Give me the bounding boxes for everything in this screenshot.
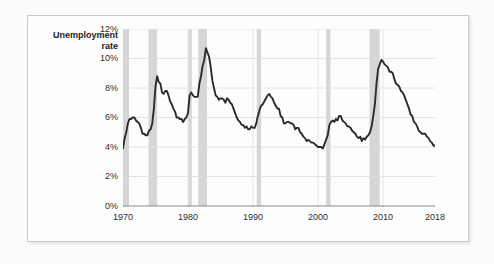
y-axis-tick-label: 8%	[84, 84, 118, 93]
x-axis-tick-label: 1980	[165, 213, 211, 222]
y-axis-tick-label: 0%	[84, 202, 118, 211]
plot-area	[123, 29, 435, 206]
y-axis-tick-label: 12%	[84, 25, 118, 34]
x-axis-tick-label: 2000	[295, 213, 341, 222]
x-axis-tick-label: 1990	[230, 213, 276, 222]
figure-container: Unemployment rate 0%2%4%6%8%10%12% 19701…	[27, 15, 469, 242]
y-axis-tick-label: 6%	[84, 113, 118, 122]
page-background: Unemployment rate 0%2%4%6%8%10%12% 19701…	[0, 0, 494, 264]
x-axis-tick-label: 1970	[100, 213, 146, 222]
x-axis-tick-label: 2010	[360, 213, 406, 222]
x-axis-tick-label: 2018	[412, 213, 458, 222]
unemployment-rate-chart: Unemployment rate 0%2%4%6%8%10%12% 19701…	[28, 16, 468, 241]
top-caption-strip	[34, 0, 474, 9]
y-axis-title-line2: rate	[101, 41, 118, 51]
plot-svg	[123, 29, 435, 207]
y-axis-tick-label: 2%	[84, 172, 118, 181]
y-axis-tick-label: 10%	[84, 54, 118, 63]
y-axis-tick-label: 4%	[84, 143, 118, 152]
